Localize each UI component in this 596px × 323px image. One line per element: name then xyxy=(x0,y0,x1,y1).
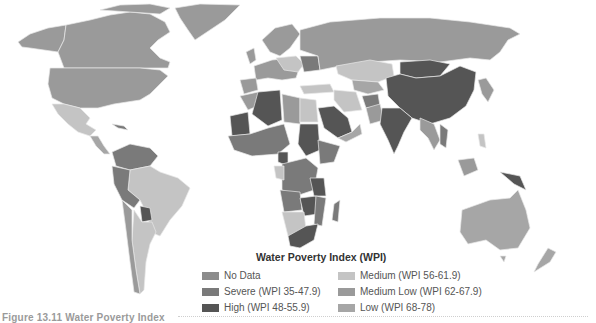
legend-label: No Data xyxy=(224,270,261,281)
legend-label: Medium (WPI 56-61.9) xyxy=(360,270,461,281)
region-greenland xyxy=(175,4,240,40)
region-libya xyxy=(282,94,300,124)
region-sudan xyxy=(298,124,320,156)
legend-label: Low (WPI 68-78) xyxy=(360,302,435,313)
region-turkey xyxy=(300,84,334,94)
legend-item-no-data: No Data xyxy=(202,269,261,282)
legend-item-medium-low: Medium Low (WPI 62-67.9) xyxy=(338,285,482,298)
region-eastern-europe xyxy=(300,56,320,72)
region-korea-japan xyxy=(478,78,494,102)
region-philippines xyxy=(478,134,486,148)
region-egypt xyxy=(300,98,318,122)
caption-continuation xyxy=(178,316,588,320)
legend-title: Water Poverty Index (WPI) xyxy=(256,251,386,263)
legend-item-medium: Medium (WPI 56-61.9) xyxy=(338,269,461,282)
region-alaska xyxy=(18,25,66,52)
region-colombia-venezuela xyxy=(112,144,158,170)
legend-item-severe: Severe (WPI 35-47.9) xyxy=(202,285,321,298)
region-new-zealand xyxy=(534,248,556,272)
region-tasmania xyxy=(500,256,506,262)
region-iran xyxy=(334,90,362,112)
legend-swatch xyxy=(338,304,355,312)
region-mozambique xyxy=(314,196,326,226)
region-australia xyxy=(460,190,530,250)
legend-swatch xyxy=(202,288,219,296)
region-central-america xyxy=(90,136,110,154)
region-paraguay xyxy=(140,206,152,222)
region-mexico xyxy=(52,104,96,136)
region-madagascar xyxy=(332,200,340,222)
legend-swatch xyxy=(338,288,355,296)
region-vietnam xyxy=(440,124,448,148)
region-scandinavia xyxy=(262,24,300,56)
region-southeast-asia xyxy=(420,118,440,150)
region-indonesia xyxy=(458,158,478,176)
legend-item-high: High (WPI 48-55.9) xyxy=(202,301,310,314)
legend-label: Severe (WPI 35-47.9) xyxy=(224,286,321,297)
region-gabon-congo xyxy=(274,166,284,180)
legend-swatch xyxy=(202,272,219,280)
region-central-asia xyxy=(352,80,384,94)
region-canada xyxy=(58,12,170,68)
region-horn xyxy=(318,140,340,164)
region-india xyxy=(380,108,412,154)
figure-caption: Figure 13.11 Water Poverty Index xyxy=(2,312,165,323)
region-tanzania xyxy=(310,178,326,196)
region-mauritania xyxy=(230,112,250,136)
legend-swatch xyxy=(338,272,355,280)
region-cuba xyxy=(112,124,128,130)
legend-label: High (WPI 48-55.9) xyxy=(224,302,310,313)
region-angola xyxy=(280,190,302,212)
region-uk xyxy=(246,48,256,64)
region-usa xyxy=(48,68,168,108)
region-papua xyxy=(500,172,526,190)
legend-label: Medium Low (WPI 62-67.9) xyxy=(360,286,482,297)
legend-swatch xyxy=(202,304,219,312)
region-arctic-islands xyxy=(100,4,170,14)
legend-item-low: Low (WPI 68-78) xyxy=(338,301,435,314)
region-iberia xyxy=(240,78,258,94)
